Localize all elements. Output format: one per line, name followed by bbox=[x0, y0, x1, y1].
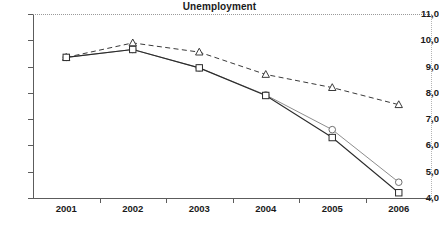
series-line-circle bbox=[66, 49, 399, 182]
y-tick-mark bbox=[28, 198, 33, 199]
data-point-triangle bbox=[129, 39, 136, 46]
x-tick-label: 2005 bbox=[299, 203, 365, 214]
y-tick-mark bbox=[28, 119, 33, 120]
x-tick-label: 2003 bbox=[166, 203, 232, 214]
data-point-square bbox=[263, 92, 269, 98]
data-point-circle bbox=[395, 179, 402, 186]
chart-container: Unemployment 11,010,09,08,07,06,05,04,02… bbox=[0, 0, 439, 227]
x-tick-mark bbox=[299, 198, 300, 203]
y-tick-label: 5,0 bbox=[413, 167, 439, 177]
y-tick-mark bbox=[28, 145, 33, 146]
y-tick-mark bbox=[28, 172, 33, 173]
y-tick-mark bbox=[28, 93, 33, 94]
x-tick-mark bbox=[166, 198, 167, 203]
x-tick-label: 2001 bbox=[33, 203, 99, 214]
x-tick-mark bbox=[100, 198, 101, 203]
y-tick-mark bbox=[28, 67, 33, 68]
x-tick-label: 2004 bbox=[233, 203, 299, 214]
y-tick-label: 4,0 bbox=[413, 193, 439, 203]
data-point-square bbox=[396, 190, 402, 196]
y-tick-label: 8,0 bbox=[413, 88, 439, 98]
series-layer bbox=[0, 0, 439, 227]
y-tick-mark bbox=[28, 14, 33, 15]
data-point-triangle bbox=[196, 48, 203, 55]
y-tick-label: 6,0 bbox=[413, 140, 439, 150]
x-tick-label: 2002 bbox=[100, 203, 166, 214]
data-point-square bbox=[63, 54, 69, 60]
series-line-triangle bbox=[66, 43, 399, 105]
data-point-circle bbox=[329, 126, 336, 133]
x-tick-mark bbox=[366, 198, 367, 203]
series-line-square bbox=[66, 49, 399, 192]
data-point-square bbox=[196, 65, 202, 71]
y-tick-label: 7,0 bbox=[413, 114, 439, 124]
y-tick-mark bbox=[28, 40, 33, 41]
x-tick-label: 2006 bbox=[366, 203, 432, 214]
data-point-square bbox=[329, 134, 335, 140]
y-tick-label: 10,0 bbox=[413, 35, 439, 45]
x-tick-mark bbox=[233, 198, 234, 203]
data-point-square bbox=[130, 46, 136, 52]
y-tick-label: 11,0 bbox=[413, 9, 439, 19]
y-tick-label: 9,0 bbox=[413, 62, 439, 72]
